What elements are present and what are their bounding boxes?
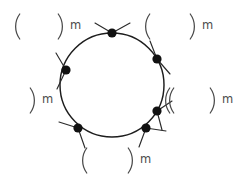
unit-middle-right-close-bracket xyxy=(210,88,214,113)
unit-middle-left-subscript: m xyxy=(42,94,53,106)
unit-bottom-open-bracket xyxy=(83,148,87,173)
vertex-left xyxy=(61,65,70,74)
vertex-upper-right xyxy=(152,54,161,63)
unit-top-left-subscript: m xyxy=(70,20,81,32)
unit-top-left-open-bracket xyxy=(16,14,20,39)
vertex-top xyxy=(107,28,116,37)
unit-top-right-subscript: m xyxy=(202,20,213,32)
unit-middle-left-close-bracket xyxy=(30,88,34,113)
unit-top-right-close-bracket xyxy=(190,14,194,39)
vertex-bottom-left xyxy=(73,123,82,132)
vertex-lower-right xyxy=(152,106,161,115)
macrocycle-ring xyxy=(60,33,164,137)
vertex-bottom-right xyxy=(141,123,150,132)
ring-diagram-figure: mmmmm xyxy=(0,0,240,177)
unit-top-right-open-bracket xyxy=(146,14,150,39)
unit-middle-right-subscript: m xyxy=(222,94,233,106)
unit-bottom-subscript: m xyxy=(140,154,151,166)
bond-whisker-group xyxy=(56,23,172,148)
unit-top-left-close-bracket xyxy=(58,14,62,39)
unit-bottom-close-bracket xyxy=(128,148,132,173)
vertex-dot-group xyxy=(61,28,161,132)
unit-middle-right-open-bracket xyxy=(170,88,174,113)
